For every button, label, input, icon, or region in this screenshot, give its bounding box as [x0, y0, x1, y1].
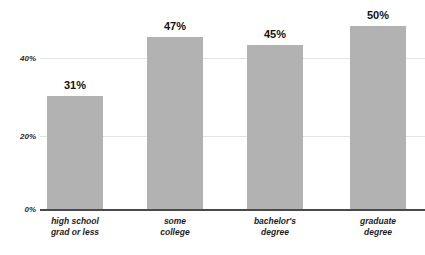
axis-baseline — [40, 209, 425, 211]
category-label-line-2: degree — [221, 227, 329, 238]
category-label-some-college: some college — [121, 216, 229, 238]
bar-bachelors-degree — [247, 45, 303, 209]
y-tick-label-20: 20% — [0, 132, 36, 141]
bar-chart: 40% 20% 0% 31% 47% 45% 50% high school g… — [0, 0, 425, 255]
y-tick-label-40: 40% — [0, 54, 36, 63]
category-label-line-2: grad or less — [21, 227, 129, 238]
category-label-line-2: college — [121, 227, 229, 238]
y-tick-label-0: 0% — [0, 205, 36, 214]
category-label-line-1: graduate — [324, 216, 425, 227]
bar-high-school-grad-or-less — [47, 96, 103, 209]
bar-some-college — [147, 37, 203, 209]
category-label-graduate-degree: graduate degree — [324, 216, 425, 238]
category-label-line-1: some — [121, 216, 229, 227]
bar-graduate-degree — [350, 26, 406, 209]
plot-area: 40% 20% 0% 31% 47% 45% 50% high school g… — [0, 0, 425, 255]
value-label-graduate-degree: 50% — [343, 9, 413, 21]
category-label-high-school-grad-or-less: high school grad or less — [21, 216, 129, 238]
category-label-line-2: degree — [324, 227, 425, 238]
category-label-line-1: high school — [21, 216, 129, 227]
category-label-line-1: bachelor's — [221, 216, 329, 227]
value-label-some-college: 47% — [140, 20, 210, 32]
value-label-high-school-grad-or-less: 31% — [40, 79, 110, 91]
category-label-bachelors-degree: bachelor's degree — [221, 216, 329, 238]
value-label-bachelors-degree: 45% — [240, 28, 310, 40]
